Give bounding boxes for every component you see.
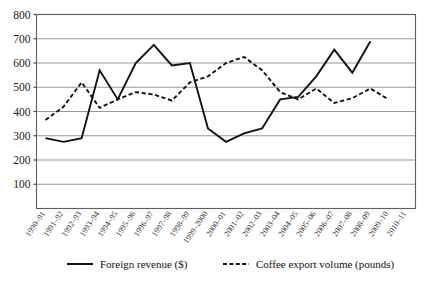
y-axis-label: 400: [13, 106, 31, 118]
y-axis-label: 800: [13, 9, 31, 21]
legend-label: Coffee export volume (pounds): [256, 258, 395, 271]
y-axis-label: 300: [13, 130, 31, 142]
y-axis-label: 100: [13, 178, 31, 190]
y-axis-label: 600: [13, 57, 31, 69]
y-axis-label: 500: [13, 81, 31, 93]
chart-background: [0, 0, 432, 287]
line-chart: 100200300400500600700800 1990–911991–921…: [0, 0, 432, 287]
chart-container: 100200300400500600700800 1990–911991–921…: [0, 0, 432, 287]
legend-label: Foreign revenue ($): [100, 258, 188, 271]
y-axis-label: 700: [13, 33, 31, 45]
y-axis-label: 200: [13, 154, 31, 166]
